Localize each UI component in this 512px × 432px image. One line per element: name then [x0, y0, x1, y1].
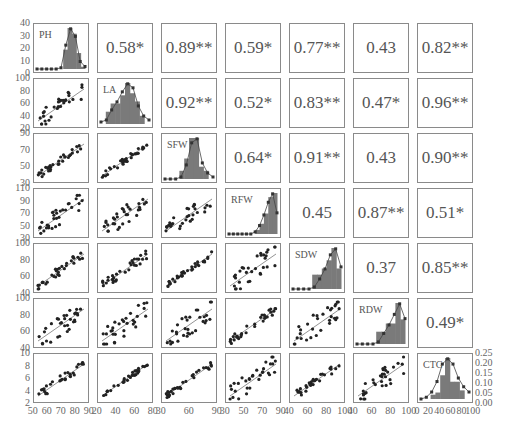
- variable-label-sfw: SFW: [167, 139, 188, 150]
- x-tick-label: 100: [465, 406, 480, 416]
- histogram-ph: PH: [33, 23, 89, 73]
- histogram-rdw: RDW: [353, 298, 409, 348]
- x-tick-label: 0: [414, 406, 419, 416]
- y-tick-label-right: 0.05: [475, 388, 493, 398]
- correlation-cell-ph-ctg: 0.82**: [417, 23, 473, 73]
- y-tick-label: 80: [0, 255, 30, 265]
- y-tick-label-right: 0.25: [475, 348, 493, 358]
- correlation-cell-sfw-ctg: 0.90**: [417, 133, 473, 183]
- x-tick-label: 50: [28, 406, 38, 416]
- histogram-la: LA: [97, 78, 153, 128]
- scatter-ctg-vs-la: [97, 353, 153, 403]
- x-tick-label: 80: [385, 406, 395, 416]
- correlation-cell-rfw-ctg: 0.51*: [417, 188, 473, 238]
- x-tick-label: 30: [220, 406, 230, 416]
- y-tick-label: 4: [0, 386, 30, 396]
- correlation-cell-ph-la: 0.58*: [97, 23, 153, 73]
- y-tick-label-right: 0.20: [475, 358, 493, 368]
- x-tick-label: 80: [321, 406, 331, 416]
- scatter-ctg-vs-rfw: [225, 353, 281, 403]
- y-tick-label: 30: [0, 31, 30, 41]
- x-tick-label: 40: [284, 406, 294, 416]
- y-tick-label: 40: [0, 111, 30, 121]
- scatter-ctg-vs-rdw: [353, 353, 409, 403]
- y-tick-label: 50: [0, 221, 30, 231]
- x-tick-label: 80: [70, 406, 80, 416]
- y-tick-label: 110: [0, 183, 30, 193]
- y-tick-label: 70: [0, 208, 30, 218]
- histogram-rfw: RFW: [225, 188, 281, 238]
- correlation-cell-ph-rfw: 0.59*: [225, 23, 281, 73]
- scatter-sfw-vs-la: [97, 133, 153, 183]
- histogram-sdw: SDW: [289, 243, 345, 293]
- correlation-cell-sfw-rfw: 0.64*: [225, 133, 281, 183]
- y-tick-label: 80: [0, 86, 30, 96]
- scatter-rdw-vs-sfw: [161, 298, 217, 348]
- x-tick-label: 60: [129, 406, 139, 416]
- scatter-sdw-vs-sfw: [161, 243, 217, 293]
- correlation-cell-ph-sfw: 0.89**: [161, 23, 217, 73]
- correlation-cell-ph-sdw: 0.77**: [289, 23, 345, 73]
- x-tick-label: 70: [56, 406, 66, 416]
- y-tick-label: 50: [0, 161, 30, 171]
- scatter-ctg-vs-sdw: [289, 353, 345, 403]
- scatter-rdw-vs-la: [97, 298, 153, 348]
- x-tick-label: 40: [434, 406, 444, 416]
- variable-label-rdw: RDW: [359, 304, 382, 315]
- scatter-sdw-vs-ph: [33, 243, 89, 293]
- y-tick-label: 2: [0, 398, 30, 408]
- correlation-cell-rdw-ctg: 0.49*: [417, 298, 473, 348]
- scatter-rdw-vs-ph: [33, 298, 89, 348]
- correlation-cell-la-sdw: 0.83**: [289, 78, 345, 128]
- x-tick-label: 60: [184, 406, 194, 416]
- variable-label-sdw: SDW: [295, 249, 317, 260]
- x-tick-label: 50: [238, 406, 248, 416]
- x-tick-label: 60: [302, 406, 312, 416]
- y-tick-label: 60: [0, 98, 30, 108]
- y-tick-label: 8: [0, 361, 30, 371]
- scatter-rdw-vs-rfw: [225, 298, 281, 348]
- y-tick-label: 100: [0, 73, 30, 83]
- correlation-cell-la-sfw: 0.92**: [161, 78, 217, 128]
- scatter-sfw-vs-ph: [33, 133, 89, 183]
- y-tick-label: 10: [0, 56, 30, 66]
- y-tick-label: 60: [0, 271, 30, 281]
- y-tick-label-right: 0.10: [475, 378, 493, 388]
- x-tick-label: 70: [257, 406, 267, 416]
- x-tick-label: 60: [445, 406, 455, 416]
- scatter-rfw-vs-la: [97, 188, 153, 238]
- scatter-la-vs-ph: [33, 78, 89, 128]
- correlation-cell-sfw-rdw: 0.43: [353, 133, 409, 183]
- y-tick-label: 80: [0, 310, 30, 320]
- x-tick-label: 40: [110, 406, 120, 416]
- y-tick-label: 10: [0, 348, 30, 358]
- scatter-matrix-figure: PH0.58*0.89**0.59*0.77**0.430.82**LA0.92…: [0, 0, 512, 432]
- x-tick-label: 20: [423, 406, 433, 416]
- x-tick-label: 40: [348, 406, 358, 416]
- correlation-cell-ph-rdw: 0.43: [353, 23, 409, 73]
- correlation-cell-rfw-sdw: 0.45: [289, 188, 345, 238]
- correlation-cell-rfw-rdw: 0.87**: [353, 188, 409, 238]
- x-tick-label: 60: [366, 406, 376, 416]
- y-tick-label: 90: [0, 196, 30, 206]
- y-tick-label: 6: [0, 373, 30, 383]
- x-tick-label: 30: [156, 406, 166, 416]
- scatter-sdw-vs-rfw: [225, 243, 281, 293]
- y-tick-label: 70: [0, 145, 30, 155]
- histogram-ctg: CTG: [417, 353, 473, 403]
- variable-label-la: LA: [103, 84, 116, 95]
- variable-label-rfw: RFW: [231, 194, 253, 205]
- correlation-cell-la-rdw: 0.47*: [353, 78, 409, 128]
- correlation-cell-sdw-rdw: 0.37: [353, 243, 409, 293]
- correlation-cell-sfw-sdw: 0.91**: [289, 133, 345, 183]
- y-tick-label-right: 0.15: [475, 368, 493, 378]
- correlation-cell-la-ctg: 0.96**: [417, 78, 473, 128]
- y-tick-label: 20: [0, 43, 30, 53]
- scatter-ctg-vs-sfw: [161, 353, 217, 403]
- scatter-rfw-vs-ph: [33, 188, 89, 238]
- y-tick-label: 90: [0, 128, 30, 138]
- variable-label-ctg: CTG: [423, 359, 443, 370]
- histogram-sfw: SFW: [161, 133, 217, 183]
- x-tick-label: 60: [42, 406, 52, 416]
- scatter-rdw-vs-sdw: [289, 298, 345, 348]
